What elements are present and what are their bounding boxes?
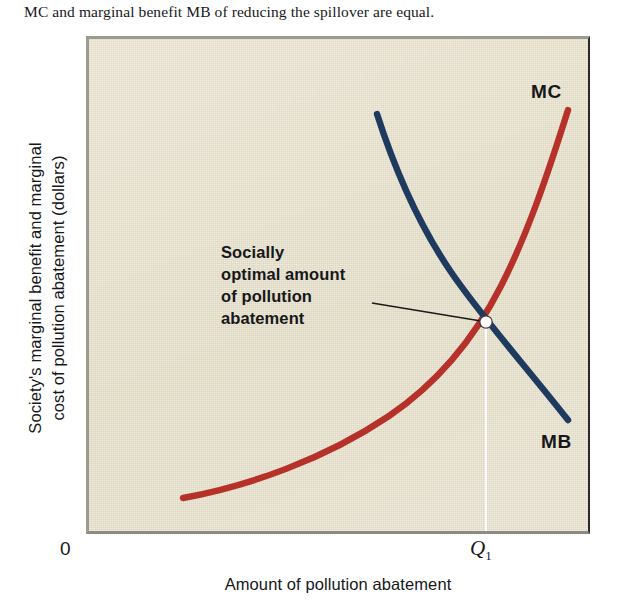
annotation-line-2: optimal amount bbox=[221, 263, 401, 285]
q1-letter: Q bbox=[470, 536, 485, 560]
plot-area: MC MB Socially optimal amount of polluti… bbox=[86, 36, 590, 534]
annotation-line-4: abatement bbox=[221, 307, 401, 329]
annotation-line-1: Socially bbox=[221, 241, 401, 263]
mc-curve-label: MC bbox=[531, 81, 562, 103]
q1-tick-label: Q1 bbox=[470, 536, 492, 564]
mb-curve bbox=[377, 114, 568, 420]
x-axis-title: Amount of pollution abatement bbox=[86, 575, 590, 594]
q1-subscript: 1 bbox=[485, 548, 492, 563]
annotation-line-3: of pollution bbox=[221, 285, 401, 307]
y-axis-title-line-1: Society's marginal benefit and marginal bbox=[24, 53, 47, 523]
mb-curve-label: MB bbox=[541, 431, 572, 453]
socially-optimal-point-marker bbox=[480, 316, 492, 328]
y-axis-title-line-2: cost of pollution abatement (dollars) bbox=[47, 53, 70, 523]
figure-container: MC MB Socially optimal amount of polluti… bbox=[0, 0, 622, 609]
origin-tick-label: 0 bbox=[60, 538, 71, 560]
y-axis-title: Society's marginal benefit and marginal … bbox=[24, 53, 70, 523]
socially-optimal-annotation: Socially optimal amount of pollution aba… bbox=[221, 241, 401, 329]
